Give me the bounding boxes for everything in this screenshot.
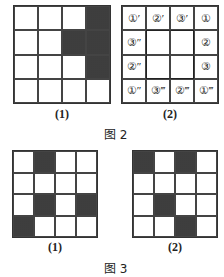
inner-cell: [146, 30, 170, 54]
grid-cell: [76, 151, 97, 173]
shaded-cell: [34, 194, 55, 216]
labeled-cell: ③′: [170, 6, 194, 30]
grid-cell: [38, 55, 62, 79]
labeled-cell: ③″: [122, 30, 146, 54]
figure2-label: 图 2: [104, 125, 127, 142]
grid-cell: [154, 151, 175, 173]
labeled-cell: ②′: [146, 6, 170, 30]
grid-cell: [14, 30, 38, 54]
labeled-cell: ③: [194, 55, 218, 79]
labeled-cell: ①: [194, 6, 218, 30]
inner-cell: [170, 55, 194, 79]
grid-cell: [133, 216, 154, 238]
grid-cell: [13, 173, 34, 195]
figure2-grid2: ①′②′③′①③″②②″③①″③‴②‴①‴: [121, 5, 219, 104]
shaded-cell: [86, 30, 110, 54]
grid-cell: [196, 151, 217, 173]
grid-cell: [34, 173, 55, 195]
grid-cell: [62, 79, 86, 103]
grid-cell: [62, 6, 86, 30]
grid-cell: [86, 79, 110, 103]
figure2-grid2-caption: (2): [121, 107, 219, 122]
figure3-label: 图 3: [104, 259, 127, 276]
figure3-grid1-caption: (1): [12, 240, 98, 255]
shaded-cell: [76, 194, 97, 216]
grid-cell: [76, 173, 97, 195]
grid-cell: [55, 173, 76, 195]
labeled-cell: ①′: [122, 6, 146, 30]
grid-cell: [154, 173, 175, 195]
shaded-cell: [154, 194, 175, 216]
shaded-cell: [133, 151, 154, 173]
grid-cell: [55, 194, 76, 216]
grid-cell: [196, 194, 217, 216]
grid-cell: [14, 6, 38, 30]
grid-cell: [14, 79, 38, 103]
grid-cell: [175, 194, 196, 216]
labeled-cell: ②″: [122, 55, 146, 79]
shaded-cell: [86, 6, 110, 30]
shaded-cell: [34, 151, 55, 173]
figure3-grid2: [132, 150, 218, 238]
labeled-cell: ③‴: [146, 79, 170, 103]
grid-cell: [133, 194, 154, 216]
grid-cell: [13, 194, 34, 216]
grid-cell: [55, 216, 76, 238]
shaded-cell: [62, 30, 86, 54]
grid-cell: [62, 55, 86, 79]
grid-cell: [34, 216, 55, 238]
labeled-cell: ①‴: [194, 79, 218, 103]
shaded-cell: [86, 55, 110, 79]
grid-cell: [55, 151, 76, 173]
grid-cell: [76, 216, 97, 238]
inner-cell: [146, 55, 170, 79]
grid-cell: [38, 6, 62, 30]
figure2-grid1-caption: (1): [13, 107, 111, 122]
grid-cell: [196, 216, 217, 238]
grid-cell: [38, 30, 62, 54]
labeled-cell: ②‴: [170, 79, 194, 103]
grid-cell: [13, 151, 34, 173]
grid-cell: [175, 173, 196, 195]
figure2-grid1: [13, 5, 111, 104]
grid-cell: [154, 216, 175, 238]
labeled-cell: ②: [194, 30, 218, 54]
grid-cell: [14, 55, 38, 79]
grid-cell: [133, 173, 154, 195]
figure3-grid1: [12, 150, 98, 238]
figure3-grid2-caption: (2): [132, 240, 218, 255]
labeled-cell: ①″: [122, 79, 146, 103]
inner-cell: [170, 30, 194, 54]
grid-cell: [38, 79, 62, 103]
grid-cell: [196, 173, 217, 195]
shaded-cell: [175, 151, 196, 173]
shaded-cell: [13, 216, 34, 238]
shaded-cell: [175, 216, 196, 238]
